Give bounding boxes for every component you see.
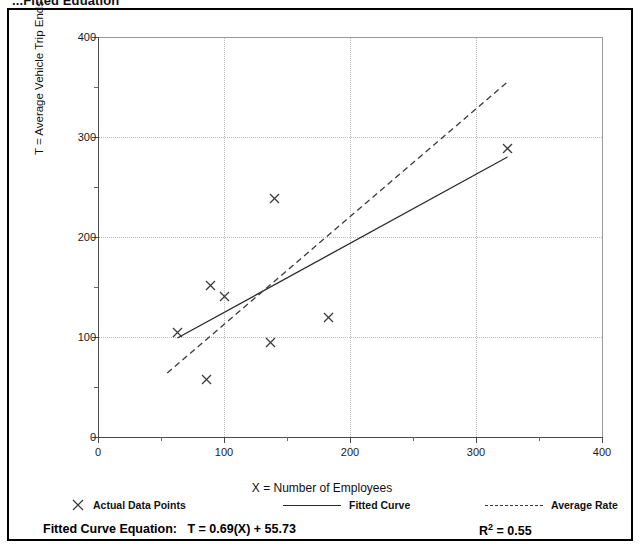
- y-axis-title: T = Average Vehicle Trip Ends: [33, 0, 45, 155]
- ytick-label-400: 400: [56, 32, 96, 43]
- r-squared-exponent: 2: [488, 522, 493, 532]
- fitted-equation-value: T = 0.69(X) + 55.73: [187, 522, 295, 536]
- fitted-equation-label: Fitted Curve Equation:: [43, 522, 177, 536]
- x-marker-icon: [71, 498, 85, 512]
- xtick-label-300: 300: [451, 447, 501, 458]
- legend-label-average-rate: Average Rate: [551, 499, 618, 511]
- r-squared-label: R: [479, 524, 488, 538]
- legend-label-actual-data-points: Actual Data Points: [93, 499, 186, 511]
- x-axis-title: X = Number of Employees: [9, 481, 635, 495]
- legend-item-average-rate: Average Rate: [485, 497, 618, 513]
- xtick-label-100: 100: [199, 447, 249, 458]
- figure-border-box: 400 300 200 100 0 0 100 200 300 400: [7, 8, 633, 541]
- ytick-label-100: 100: [56, 332, 96, 343]
- ytick-label-0: 0: [56, 432, 96, 443]
- dashed-line-icon: [485, 505, 543, 506]
- fitted-curve-equation: Fitted Curve Equation: T = 0.69(X) + 55.…: [43, 522, 296, 536]
- figure-page: ...Fitted Equation 400: [0, 0, 640, 549]
- plot-area: 400 300 200 100 0 0 100 200 300 400: [98, 37, 602, 437]
- xtick-label-0: 0: [73, 447, 123, 458]
- series-lines: [98, 37, 603, 438]
- equation-row: Fitted Curve Equation: T = 0.69(X) + 55.…: [9, 522, 635, 542]
- ytick-label-300: 300: [56, 132, 96, 143]
- solid-line-icon: [283, 505, 341, 506]
- xtick-label-200: 200: [325, 447, 375, 458]
- fitted-curve-line: [177, 157, 507, 338]
- r-squared-value: R2 = 0.55: [479, 522, 532, 538]
- legend-item-actual-data-points: Actual Data Points: [71, 497, 186, 513]
- chart-legend: Actual Data Points Fitted Curve Average …: [9, 497, 635, 517]
- r-squared-number: = 0.55: [497, 524, 532, 538]
- legend-label-fitted-curve: Fitted Curve: [349, 499, 410, 511]
- xtick-label-400: 400: [577, 447, 627, 458]
- figure-title: ...Fitted Equation: [12, 0, 119, 5]
- legend-item-fitted-curve: Fitted Curve: [283, 497, 410, 513]
- ytick-label-200: 200: [56, 232, 96, 243]
- average-rate-line: [167, 82, 507, 373]
